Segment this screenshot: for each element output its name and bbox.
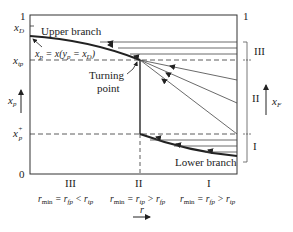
left-tick-1: 1 xyxy=(20,10,26,22)
lower-branch-curve xyxy=(140,134,237,156)
turning-point-label-1: Turning xyxy=(89,69,125,81)
turning-point-label-2: point xyxy=(97,82,120,94)
pinch-point-diagram: 1 xD xtp xp x+p 0 1 III II I xF Upper br… xyxy=(0,0,293,232)
right-tick-1: 1 xyxy=(243,10,249,22)
cond-II: rmin = rtp > rfp xyxy=(110,194,166,206)
xtp-label: xtp xyxy=(12,54,24,68)
upper-branch-label: Upper branch xyxy=(41,25,102,37)
xp-axis-label: xp xyxy=(7,94,17,108)
equation-label: xp = x(yp = xD) xyxy=(34,48,96,61)
lower-branch-label: Lower branch xyxy=(175,156,237,168)
right-region-II: II xyxy=(252,92,260,104)
bottom-region-II: II xyxy=(135,177,143,189)
right-region-III: III xyxy=(254,45,265,57)
cond-III: rmin = rfp < rtp xyxy=(38,194,94,206)
r-axis-label: r xyxy=(140,204,144,215)
cond-I: rmin = rfp > rtp xyxy=(180,194,236,206)
left-tick-0: 0 xyxy=(19,168,25,180)
xp-plus-label: x+p xyxy=(12,125,23,142)
bottom-region-I: I xyxy=(207,177,211,189)
xD-label: xD xyxy=(13,21,24,35)
right-region-I: I xyxy=(253,140,257,152)
bottom-region-III: III xyxy=(65,177,76,189)
xF-axis-label: xF xyxy=(271,95,282,109)
